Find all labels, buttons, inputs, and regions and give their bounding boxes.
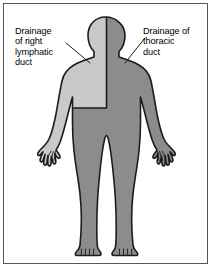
thoracic-duct-label: Drainage of thoracic duct — [143, 26, 213, 57]
diagram-frame: Drainage of right lymphatic duct Drainag… — [3, 3, 208, 264]
leader-line-right — [125, 38, 145, 63]
right-lymphatic-duct-label: Drainage of right lymphatic duct — [15, 26, 77, 68]
